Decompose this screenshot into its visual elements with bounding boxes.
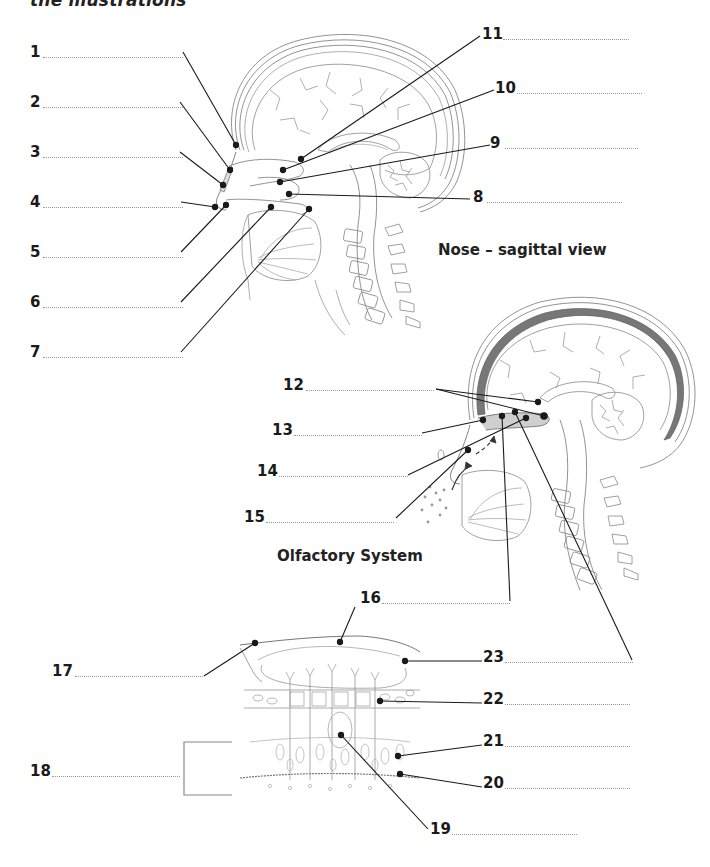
answer-line-7[interactable] xyxy=(43,357,183,358)
answer-line-20[interactable] xyxy=(505,788,630,789)
label-number-4: 4 xyxy=(30,194,40,210)
label-number-7: 7 xyxy=(30,344,40,360)
answer-line-15[interactable] xyxy=(266,522,394,523)
answer-line-21[interactable] xyxy=(505,746,630,747)
answer-line-8[interactable] xyxy=(487,202,622,203)
label-number-21: 21 xyxy=(483,733,504,749)
label-number-3: 3 xyxy=(30,144,40,160)
label-number-9: 9 xyxy=(490,135,500,151)
label-number-13: 13 xyxy=(272,422,293,438)
answer-line-3[interactable] xyxy=(43,157,183,158)
answer-line-23[interactable] xyxy=(505,662,633,663)
label-number-5: 5 xyxy=(30,244,40,260)
answer-line-2[interactable] xyxy=(43,107,183,108)
answer-line-1[interactable] xyxy=(43,57,183,58)
answer-line-12[interactable] xyxy=(306,390,434,391)
label-number-8: 8 xyxy=(473,189,483,205)
answer-line-16[interactable] xyxy=(382,603,510,604)
label-number-2: 2 xyxy=(30,94,40,110)
head-olfactory-illustration xyxy=(421,297,695,590)
answer-line-4[interactable] xyxy=(43,207,183,208)
answer-line-9[interactable] xyxy=(505,148,638,149)
label-number-6: 6 xyxy=(30,294,40,310)
olfactory-epithelium-illustration xyxy=(240,636,420,791)
answer-line-5[interactable] xyxy=(43,257,183,258)
answer-line-18[interactable] xyxy=(52,776,180,777)
answer-line-11[interactable] xyxy=(503,39,629,40)
label-number-20: 20 xyxy=(483,775,504,791)
label-number-22: 22 xyxy=(483,691,504,707)
answer-line-17[interactable] xyxy=(75,676,203,677)
bracket-18 xyxy=(184,742,232,795)
label-number-15: 15 xyxy=(244,509,265,525)
label-number-23: 23 xyxy=(483,649,504,665)
label-number-12: 12 xyxy=(283,377,304,393)
label-number-18: 18 xyxy=(30,763,51,779)
title-nose-sagittal: Nose – sagittal view xyxy=(438,241,607,259)
head-sagittal-illustration xyxy=(216,34,464,335)
title-olfactory-system: Olfactory System xyxy=(277,547,423,565)
label-number-19: 19 xyxy=(430,821,451,837)
label-number-14: 14 xyxy=(257,463,278,479)
label-number-11: 11 xyxy=(482,26,503,42)
label-number-1: 1 xyxy=(30,44,40,60)
answer-line-19[interactable] xyxy=(452,834,577,835)
anatomy-illustrations xyxy=(0,0,710,867)
answer-line-6[interactable] xyxy=(43,307,183,308)
answer-line-22[interactable] xyxy=(505,704,630,705)
answer-line-13[interactable] xyxy=(294,435,422,436)
label-number-10: 10 xyxy=(495,80,516,96)
answer-line-10[interactable] xyxy=(517,93,642,94)
label-number-17: 17 xyxy=(52,663,73,679)
label-number-16: 16 xyxy=(360,590,381,606)
answer-line-14[interactable] xyxy=(279,476,408,477)
